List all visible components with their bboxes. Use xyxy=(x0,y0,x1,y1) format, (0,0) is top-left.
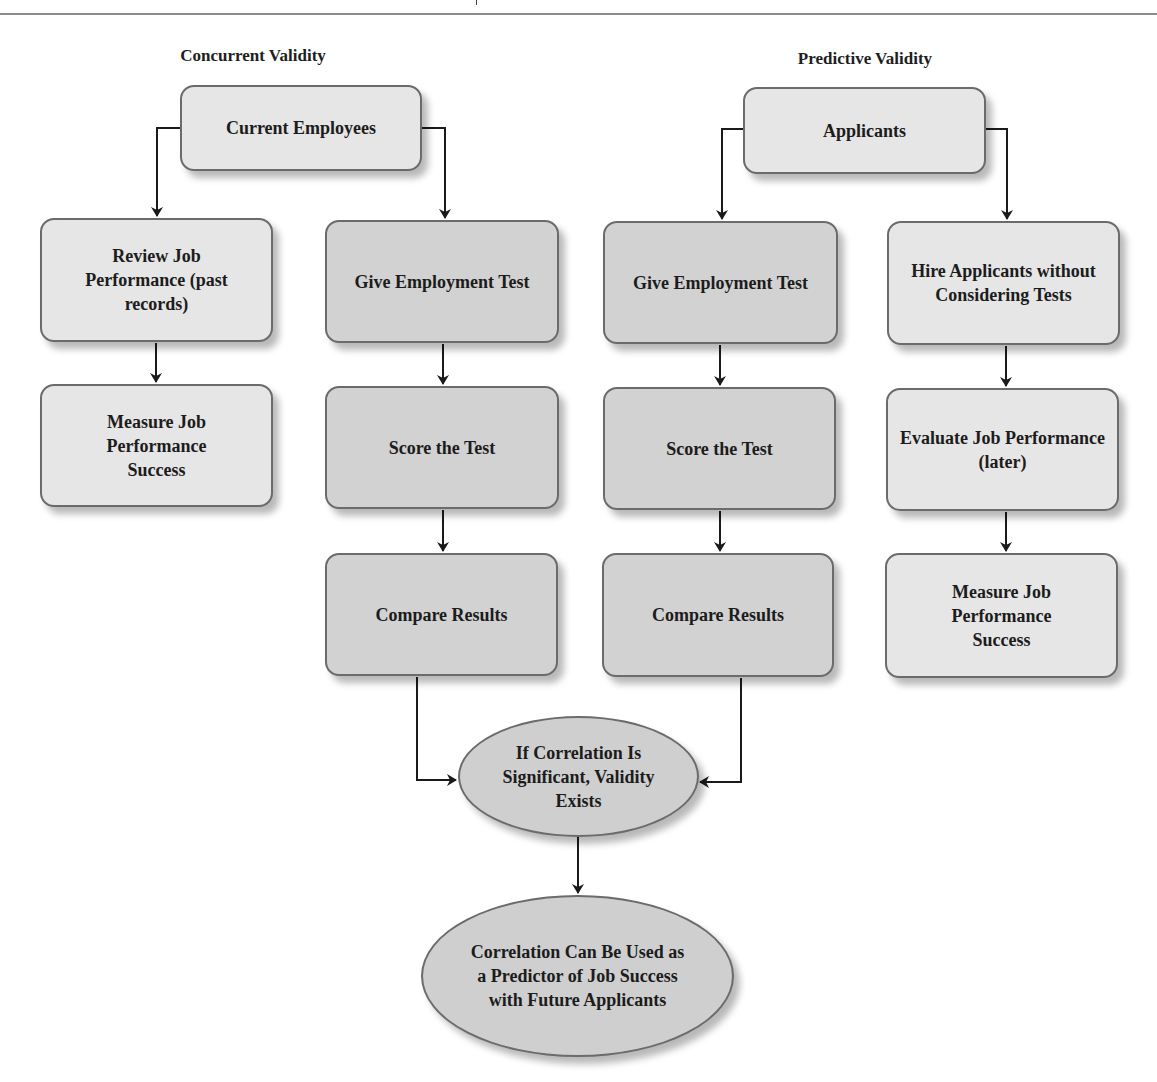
arrow-current-to-review xyxy=(157,128,180,216)
correlation-significant-node: If Correlation Is Significant, Validity … xyxy=(458,716,699,837)
node-label: Evaluate Job Performance (later) xyxy=(896,426,1109,474)
top-horizontal-rule xyxy=(0,13,1157,15)
node-label: Give Employment Test xyxy=(354,270,529,294)
node-label: Current Employees xyxy=(226,116,376,140)
measure-success-predictive-node: Measure Job Performance Success xyxy=(885,553,1118,678)
concurrent-validity-title: Concurrent Validity xyxy=(153,46,353,66)
node-label: Compare Results xyxy=(652,603,784,627)
current-employees-node: Current Employees xyxy=(180,85,422,171)
node-label: Compare Results xyxy=(375,603,507,627)
measure-success-concurrent-node: Measure Job Performance Success xyxy=(40,384,273,507)
hire-applicants-node: Hire Applicants without Considering Test… xyxy=(887,221,1120,345)
node-label: If Correlation Is Significant, Validity … xyxy=(486,741,671,813)
applicants-node: Applicants xyxy=(743,87,986,174)
node-label: Measure Job Performance Success xyxy=(82,410,231,482)
review-job-performance-node: Review Job Performance (past records) xyxy=(40,218,273,342)
predictive-validity-title: Predictive Validity xyxy=(765,49,965,69)
node-label: Hire Applicants without Considering Test… xyxy=(903,259,1104,307)
node-label: Measure Job Performance Success xyxy=(927,580,1076,652)
score-test-concurrent-node: Score the Test xyxy=(325,386,559,509)
arrow-applicants-to-give-test xyxy=(722,129,743,219)
node-label: Correlation Can Be Used as a Predictor o… xyxy=(467,940,688,1012)
evaluate-job-performance-node: Evaluate Job Performance (later) xyxy=(886,388,1119,511)
arrow-current-to-give-test xyxy=(422,128,445,218)
compare-results-concurrent-node: Compare Results xyxy=(325,553,558,676)
node-label: Score the Test xyxy=(666,437,773,461)
correlation-predictor-node: Correlation Can Be Used as a Predictor o… xyxy=(421,895,734,1057)
score-test-predictive-node: Score the Test xyxy=(603,387,836,510)
compare-results-predictive-node: Compare Results xyxy=(602,553,834,677)
node-label: Give Employment Test xyxy=(633,271,808,295)
node-label: Score the Test xyxy=(389,436,496,460)
cut-off-header-glyph xyxy=(476,0,477,5)
give-test-predictive-node: Give Employment Test xyxy=(603,221,838,344)
node-label: Review Job Performance (past records) xyxy=(72,244,241,316)
give-test-concurrent-node: Give Employment Test xyxy=(325,220,559,343)
arrow-applicants-to-hire xyxy=(986,129,1007,219)
node-label: Applicants xyxy=(823,119,906,143)
